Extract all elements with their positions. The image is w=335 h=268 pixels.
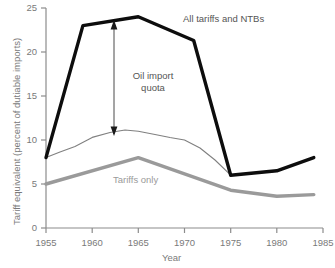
series-excluding-oil-quota: [46, 130, 231, 175]
oil-quota-line1: Oil import: [133, 70, 174, 81]
tariff-equivalent-line-chart: 25 20 15 10 5 0 1955 1960 1965 1970 1975…: [0, 0, 335, 268]
x-tick-label-1960: 1960: [72, 238, 112, 249]
x-tick-label-1965: 1965: [118, 238, 158, 249]
x-axis-title: Year: [162, 252, 181, 263]
x-tick-label-1975: 1975: [211, 238, 251, 249]
y-tick-label-25: 25: [12, 3, 37, 14]
x-axis-ticks: [46, 228, 323, 233]
annotation-tariffs-only: Tariffs only: [113, 174, 158, 185]
y-axis-title: Tariff equivalent (percent of dutiable i…: [11, 38, 22, 225]
oil-import-quota-arrow: [111, 20, 118, 136]
plot-canvas: [0, 0, 335, 268]
y-axis-ticks: [41, 8, 46, 228]
series-all-tariffs-and-ntbs: [46, 17, 314, 175]
x-tick-label-1980: 1980: [257, 238, 297, 249]
annotation-all-tariffs-and-ntbs: All tariffs and NTBs: [183, 13, 264, 24]
oil-quota-line2: quota: [141, 82, 165, 93]
x-tick-label-1985: 1985: [303, 238, 335, 249]
annotation-oil-import-quota: Oil import quota: [122, 70, 184, 94]
x-tick-label-1955: 1955: [26, 238, 66, 249]
series-tariffs-only: [46, 158, 314, 197]
x-tick-label-1970: 1970: [165, 238, 205, 249]
